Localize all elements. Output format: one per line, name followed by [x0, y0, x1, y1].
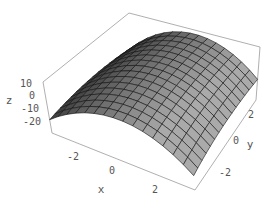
box-edge [256, 47, 260, 100]
y-tick-label: 2 [248, 109, 254, 120]
z-tick-label: 0 [29, 90, 35, 101]
x-tick-label: 0 [109, 165, 115, 176]
box-edge [43, 82, 52, 133]
z-tick-label: -20 [23, 116, 41, 127]
y-axis-label: y [247, 138, 254, 151]
z-axis: 10 0 -10 -20 z [6, 78, 41, 127]
surface-plot: 10 0 -10 -20 z -2 0 2 x -2 0 2 y [0, 0, 271, 203]
surface-mesh [50, 32, 258, 176]
y-tick-label: 0 [233, 135, 239, 146]
z-tick-label: 10 [20, 78, 32, 89]
x-tick-label: -2 [67, 151, 79, 162]
x-axis-label: x [98, 183, 105, 196]
x-axis: -2 0 2 x [67, 151, 158, 196]
y-tick-label: -2 [219, 167, 231, 178]
x-tick-label: 2 [152, 184, 158, 195]
z-axis-label: z [6, 94, 13, 107]
z-tick-label: -10 [21, 103, 39, 114]
